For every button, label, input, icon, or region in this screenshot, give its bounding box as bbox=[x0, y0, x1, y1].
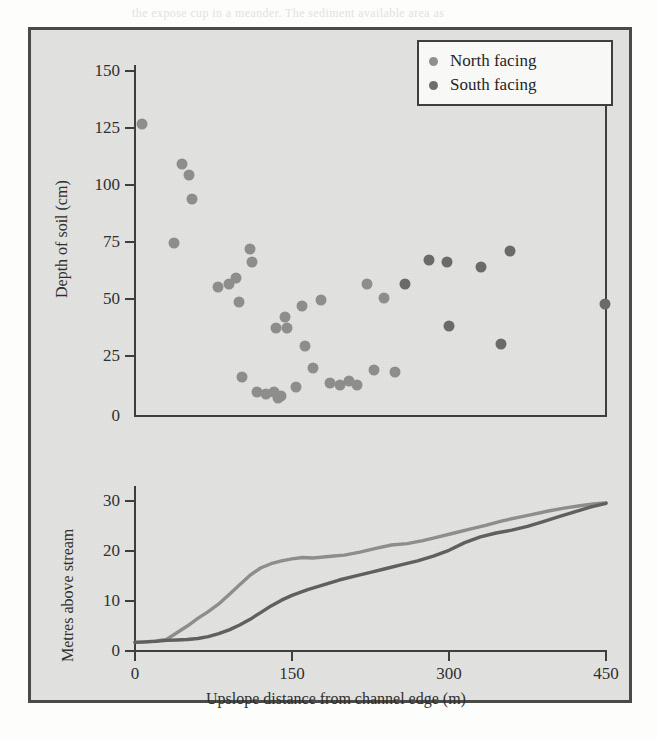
scatter-point bbox=[246, 257, 257, 268]
scatter-point bbox=[276, 391, 287, 402]
scatter-y-tick-label-150: 150 bbox=[76, 61, 120, 81]
scatter-point bbox=[505, 246, 516, 257]
scatter-point bbox=[213, 281, 224, 292]
scatter-point bbox=[186, 193, 197, 204]
slope-profile-lines bbox=[31, 450, 629, 700]
scatter-point bbox=[280, 312, 291, 323]
scatter-y-tick-label-75: 75 bbox=[76, 232, 120, 252]
scatter-point bbox=[442, 257, 453, 268]
scatter-point bbox=[599, 299, 610, 310]
scatter-point bbox=[424, 255, 435, 266]
figure-panel: Depth of soil (cm) 150 125 100 75 50 25 … bbox=[28, 27, 632, 703]
south-facing-dot-icon bbox=[429, 81, 438, 90]
scatter-point bbox=[244, 244, 255, 255]
scatter-point bbox=[362, 279, 373, 290]
scatter-point bbox=[324, 378, 335, 389]
scatter-point bbox=[290, 382, 301, 393]
scatter-point bbox=[234, 296, 245, 307]
scanned-page: the expose cup in a meander. The sedimen… bbox=[0, 0, 658, 739]
scatter-point bbox=[230, 272, 241, 283]
legend-item-south-facing[interactable]: South facing bbox=[429, 73, 595, 97]
scatter-point bbox=[282, 323, 293, 334]
scatter-y-tick-label-50: 50 bbox=[76, 289, 120, 309]
scatter-point bbox=[237, 371, 248, 382]
scatter-point bbox=[297, 301, 308, 312]
scatter-point bbox=[183, 169, 194, 180]
scatter-point bbox=[368, 364, 379, 375]
scatter-point bbox=[137, 119, 148, 130]
scatter-y-tick-label-125: 125 bbox=[76, 118, 120, 138]
legend-label-south-facing: South facing bbox=[450, 75, 536, 95]
scatter-point bbox=[270, 323, 281, 334]
scatter-point bbox=[316, 294, 327, 305]
scatter-point bbox=[307, 362, 318, 373]
legend-item-north-facing[interactable]: North facing bbox=[429, 49, 595, 73]
scatter-y-tick-label-100: 100 bbox=[76, 175, 120, 195]
scatter-point bbox=[444, 321, 455, 332]
slope-profile-chart: Metres above stream 30 20 10 0 0 150 300… bbox=[31, 450, 629, 700]
scatter-point bbox=[400, 279, 411, 290]
scatter-point bbox=[351, 380, 362, 391]
scatter-y-axis-title: Depth of soil (cm) bbox=[53, 180, 71, 298]
scatter-plot-area bbox=[134, 65, 607, 416]
profile-line bbox=[135, 503, 606, 642]
scatter-point bbox=[168, 237, 179, 248]
legend-label-north-facing: North facing bbox=[450, 51, 536, 71]
scatter-point bbox=[495, 338, 506, 349]
scatter-y-tick-label-0: 0 bbox=[76, 406, 120, 426]
scatter-point bbox=[177, 158, 188, 169]
chart-legend: North facing South facing bbox=[417, 40, 613, 106]
scatter-point bbox=[389, 367, 400, 378]
scatter-y-tick-label-25: 25 bbox=[76, 346, 120, 366]
north-facing-dot-icon bbox=[429, 57, 438, 66]
scatter-point bbox=[379, 292, 390, 303]
page-bleed-through-text: the expose cup in a meander. The sedimen… bbox=[132, 6, 444, 21]
scatter-point bbox=[475, 261, 486, 272]
scatter-point bbox=[300, 340, 311, 351]
